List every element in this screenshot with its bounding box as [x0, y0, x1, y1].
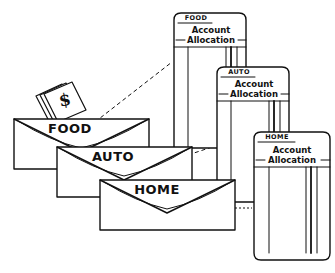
card-food-title-line1: Account	[192, 25, 231, 35]
card-home-title-line2: Allocation	[268, 155, 316, 165]
envelope-home[interactable]: HOME	[100, 180, 235, 230]
card-auto-title-line1: Account	[235, 79, 274, 89]
card-auto-tab-label: AUTO	[228, 68, 250, 76]
envelope-allocation-diagram: FOOD Account Allocation AUTO Account All…	[0, 0, 335, 273]
card-auto-title-line2: Allocation	[230, 89, 278, 99]
card-home-title-line1: Account	[273, 145, 312, 155]
envelope-auto-label: AUTO	[92, 149, 134, 164]
card-food-tab-label: FOOD	[185, 14, 208, 22]
card-home-tab-label: HOME	[265, 133, 288, 141]
card-food-title-line2: Allocation	[187, 35, 235, 45]
card-home[interactable]: HOME Account Allocation	[254, 132, 330, 260]
diagram-root: FOOD Account Allocation AUTO Account All…	[0, 0, 335, 273]
envelope-food-label: FOOD	[48, 121, 92, 136]
envelope-home-label: HOME	[134, 182, 180, 197]
